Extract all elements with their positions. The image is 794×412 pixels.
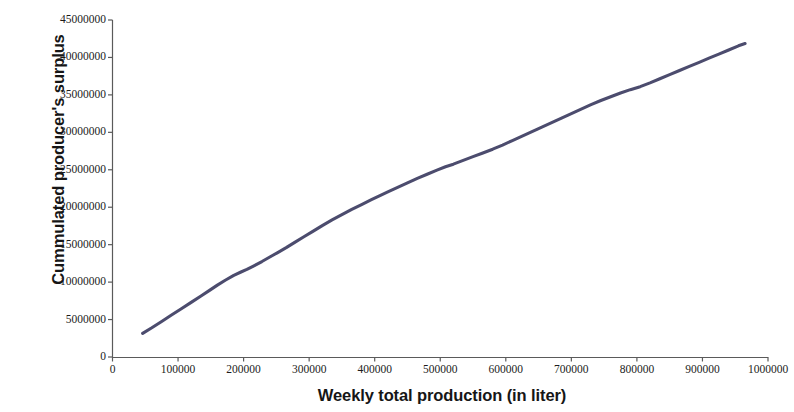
x-axis-tick-label: 500000 [423,364,458,376]
x-axis-tick-label: 700000 [554,364,589,376]
x-axis-tick-label: 400000 [357,364,392,376]
x-axis-tick-label: 800000 [620,364,655,376]
x-axis-tick-label: 1000000 [748,364,788,376]
axis-lines [113,20,769,358]
plot-area [0,0,794,412]
chart-container: Cummulated producer's surplus 0500000010… [0,0,794,412]
x-axis-tick-label: 900000 [685,364,720,376]
x-axis-tick-label: 100000 [161,364,196,376]
x-axis-tick-label: 300000 [292,364,327,376]
data-series-line [143,44,745,334]
x-axis-tick-label: 0 [110,364,116,376]
x-axis-tick-label: 600000 [489,364,524,376]
y-axis-ticks [108,20,113,357]
x-axis-tick-labels: 0100000200000300000400000500000600000700… [0,364,794,384]
x-axis-title: Weekly total production (in liter) [112,386,772,405]
x-axis-tick-label: 200000 [226,364,261,376]
